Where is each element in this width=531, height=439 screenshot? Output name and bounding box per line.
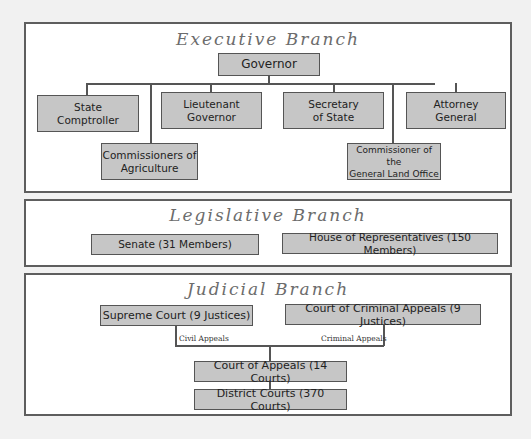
supreme-court-label: Supreme Court (9 Justices) [103, 309, 251, 322]
attorney-general-box: Attorney General [406, 92, 506, 129]
district-courts-label: District Courts (370 Courts) [195, 387, 346, 413]
senate-label: Senate (31 Members) [118, 238, 232, 251]
land-office-connector [392, 83, 394, 145]
criminal-appeals-court-label: Court of Criminal Appeals (9 Justices) [286, 302, 480, 328]
secretary-of-state-line2: of State [308, 111, 359, 124]
legislative-branch-title: Legislative Branch [26, 205, 510, 225]
attorney-connector [455, 83, 457, 92]
commissioners-agriculture-line1: Commissioners of [103, 149, 197, 162]
state-comptroller-line2: Comptroller [57, 114, 119, 127]
court-of-appeals-box: Court of Appeals (14 Courts) [194, 361, 347, 382]
lieutenant-governor-box: Lieutenant Governor [161, 92, 262, 129]
commissioners-agriculture-line2: Agriculture [103, 162, 197, 175]
attorney-general-line1: Attorney [433, 98, 478, 111]
secretary-of-state-line1: Secretary [308, 98, 359, 111]
house-box: House of Representatives (150 Members) [282, 233, 498, 254]
commissioners-agriculture-box: Commissioners of Agriculture [101, 143, 198, 180]
lt-governor-connector [210, 83, 212, 92]
governor-box: Governor [218, 53, 320, 76]
house-label: House of Representatives (150 Members) [283, 231, 497, 257]
lieutenant-governor-line1: Lieutenant [183, 98, 239, 111]
commissioner-land-office-line1: Commissioner of the [348, 144, 440, 168]
executive-branch-title: Executive Branch [26, 29, 510, 49]
comptroller-connector [86, 83, 88, 95]
district-courts-box: District Courts (370 Courts) [194, 389, 347, 410]
court-of-appeals-label: Court of Appeals (14 Courts) [195, 359, 346, 385]
supreme-court-box: Supreme Court (9 Justices) [100, 305, 253, 326]
civil-appeals-connector [175, 326, 177, 346]
executive-horizontal-bar [86, 83, 435, 85]
secretary-of-state-box: Secretary of State [283, 92, 384, 129]
criminal-appeals-label: Criminal Appeals [321, 334, 387, 343]
commissioner-land-office-box: Commissioner of the General Land Office [347, 143, 441, 180]
secretary-connector [333, 83, 335, 92]
agriculture-connector [150, 83, 152, 143]
senate-box: Senate (31 Members) [91, 234, 259, 255]
governor-label: Governor [241, 58, 297, 71]
criminal-appeals-court-box: Court of Criminal Appeals (9 Justices) [285, 304, 481, 325]
commissioner-land-office-line2: General Land Office [348, 168, 440, 180]
civil-appeals-label: Civil Appeals [179, 334, 229, 343]
attorney-general-line2: General [433, 111, 478, 124]
state-comptroller-box: State Comptroller [37, 95, 139, 132]
appeals-horizontal-bar [175, 345, 384, 347]
state-comptroller-line1: State [57, 101, 119, 114]
lieutenant-governor-line2: Governor [183, 111, 239, 124]
judicial-branch-title: Judicial Branch [26, 279, 510, 299]
